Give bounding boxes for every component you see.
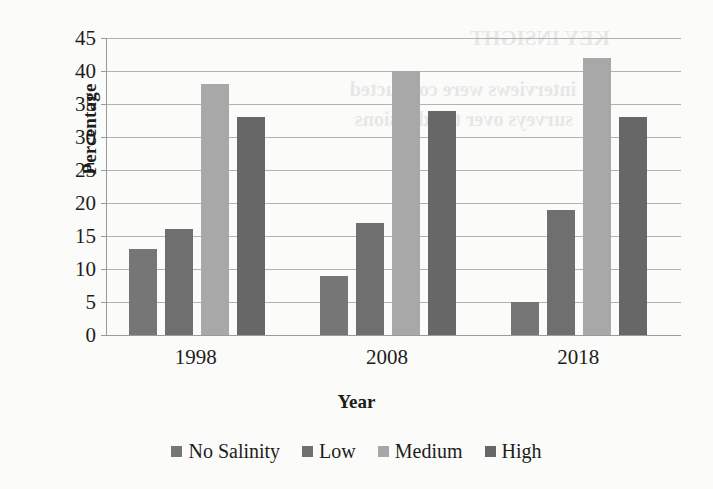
legend-item-low[interactable]: Low <box>302 440 356 463</box>
legend-label: Medium <box>395 440 463 463</box>
legend-swatch-icon <box>378 446 389 457</box>
legend-label: No Salinity <box>188 440 280 463</box>
y-axis-tick <box>101 137 107 138</box>
chart-legend: No SalinityLowMediumHigh <box>0 440 713 463</box>
y-axis-tick-label: 25 <box>75 158 96 183</box>
legend-label: High <box>502 440 542 463</box>
y-axis-tick <box>101 71 107 72</box>
y-axis-tick <box>101 236 107 237</box>
legend-swatch-icon <box>171 446 182 457</box>
legend-swatch-icon <box>485 446 496 457</box>
y-axis-tick <box>101 335 107 336</box>
bar-medium-1998[interactable] <box>201 84 229 335</box>
bar-high-2008[interactable] <box>428 111 456 335</box>
y-axis-tick-label: 35 <box>75 92 96 117</box>
bar-chart: Percentage 051015202530354045 Year No Sa… <box>0 0 713 489</box>
bar-no-salinity-2008[interactable] <box>320 276 348 335</box>
y-axis-tick <box>101 104 107 105</box>
y-axis-tick-label: 40 <box>75 59 96 84</box>
legend-item-no-salinity[interactable]: No Salinity <box>171 440 280 463</box>
bar-low-2018[interactable] <box>547 210 575 335</box>
y-axis-tick <box>101 170 107 171</box>
bar-low-1998[interactable] <box>165 229 193 335</box>
bar-no-salinity-1998[interactable] <box>129 249 157 335</box>
x-axis-tick-label-1998: 1998 <box>175 345 217 370</box>
y-axis-tick-label: 45 <box>75 26 96 51</box>
legend-label: Low <box>319 440 356 463</box>
y-axis-tick-label: 5 <box>86 290 97 315</box>
gridline <box>107 38 681 39</box>
x-axis-tick-label-2018: 2018 <box>557 345 599 370</box>
x-axis-tick-label-2008: 2008 <box>366 345 408 370</box>
y-axis-tick <box>101 269 107 270</box>
y-axis-tick-label: 30 <box>75 125 96 150</box>
bar-no-salinity-2018[interactable] <box>511 302 539 335</box>
y-axis-tick-label: 20 <box>75 191 96 216</box>
x-axis-title: Year <box>0 391 713 413</box>
y-axis-tick <box>101 302 107 303</box>
plot-area: 051015202530354045 <box>106 38 681 336</box>
bar-high-1998[interactable] <box>237 117 265 335</box>
legend-swatch-icon <box>302 446 313 457</box>
bar-medium-2018[interactable] <box>583 58 611 335</box>
bar-low-2008[interactable] <box>356 223 384 335</box>
legend-item-medium[interactable]: Medium <box>378 440 463 463</box>
y-axis-tick-label: 10 <box>75 257 96 282</box>
bar-high-2018[interactable] <box>619 117 647 335</box>
y-axis-tick <box>101 38 107 39</box>
bar-medium-2008[interactable] <box>392 71 420 335</box>
y-axis-tick-label: 15 <box>75 224 96 249</box>
y-axis-tick <box>101 203 107 204</box>
legend-item-high[interactable]: High <box>485 440 542 463</box>
y-axis-tick-label: 0 <box>86 323 97 348</box>
